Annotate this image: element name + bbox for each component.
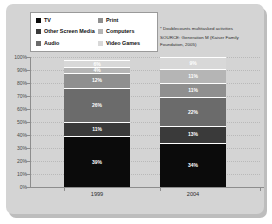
bar-segment: 39% bbox=[64, 136, 130, 187]
y-tick-mark bbox=[26, 174, 30, 175]
bar-segment-label: 26% bbox=[92, 103, 102, 108]
bar-segment: 34% bbox=[160, 143, 226, 187]
bar-segment: 13% bbox=[160, 126, 226, 143]
legend-label-audio: Audio bbox=[44, 41, 59, 46]
bar-segment: 11% bbox=[160, 69, 226, 83]
bar-segment: 26% bbox=[64, 88, 130, 122]
legend-swatch-computers bbox=[98, 29, 103, 34]
chart-figure: TV Print Other Screen Media Computers Au… bbox=[0, 0, 272, 224]
y-tick-mark bbox=[26, 135, 30, 136]
bar-segment-label: 11% bbox=[188, 88, 198, 93]
y-tick-mark bbox=[26, 122, 30, 123]
bar-segment-label: 6% bbox=[93, 62, 100, 67]
source-text-line2: Foundation, 2005) bbox=[160, 42, 262, 49]
bar-segment-label: 9% bbox=[189, 61, 196, 66]
y-tick-mark bbox=[26, 83, 30, 84]
bar-segment: 11% bbox=[160, 83, 226, 97]
legend-swatch-other-screen-media bbox=[36, 29, 41, 34]
chart-notes: * Doublecounts multitasked activities SO… bbox=[160, 26, 262, 48]
x-axis-labels: 1999 2004 bbox=[30, 191, 260, 205]
legend-label-other-screen-media: Other Screen Media bbox=[44, 29, 95, 34]
bar-segment: 9% bbox=[160, 57, 226, 69]
bar-segment: 22% bbox=[160, 97, 226, 126]
legend: TV Print Other Screen Media Computers Au… bbox=[30, 12, 158, 52]
bar-segment-label: 4% bbox=[93, 68, 100, 73]
bar-1999: 39%11%26%12%4%6% bbox=[64, 57, 130, 187]
legend-item-other-screen-media: Other Screen Media bbox=[36, 29, 98, 34]
x-tick-mark bbox=[64, 187, 65, 191]
bar-segment: 4% bbox=[64, 67, 130, 72]
footnote-text: * Doublecounts multitasked activities bbox=[160, 26, 262, 33]
bar-segment-label: 34% bbox=[188, 163, 198, 168]
source-text-line1: SOURCE: Generation M (Kaiser Family bbox=[160, 35, 262, 42]
y-tick-mark bbox=[26, 57, 30, 58]
x-tick-mark bbox=[260, 187, 261, 191]
legend-item-audio: Audio bbox=[36, 41, 98, 46]
bar-segment-label: 22% bbox=[188, 110, 198, 115]
x-label-1999: 1999 bbox=[64, 191, 130, 197]
bar-segment-label: 13% bbox=[188, 132, 198, 137]
bar-2004: 34%13%22%11%11%9% bbox=[160, 57, 226, 187]
x-label-2004: 2004 bbox=[160, 191, 226, 197]
x-tick-mark bbox=[160, 187, 161, 191]
x-axis-line bbox=[30, 187, 264, 188]
legend-label-print: Print bbox=[106, 18, 118, 23]
bar-segment-label: 39% bbox=[92, 160, 102, 165]
legend-item-computers: Computers bbox=[98, 29, 162, 34]
legend-label-video-games: Video Games bbox=[106, 41, 140, 46]
y-tick-mark bbox=[26, 96, 30, 97]
legend-item-print: Print bbox=[98, 18, 162, 23]
legend-swatch-audio bbox=[36, 41, 41, 46]
bar-segment-label: 11% bbox=[188, 74, 198, 79]
legend-label-computers: Computers bbox=[106, 29, 134, 34]
legend-item-tv: TV bbox=[36, 18, 98, 23]
bar-segment: 11% bbox=[64, 122, 130, 136]
bar-segment-label: 12% bbox=[92, 78, 102, 83]
bar-segment: 6% bbox=[64, 60, 130, 68]
bar-segment: 12% bbox=[64, 73, 130, 89]
legend-swatch-tv bbox=[36, 18, 41, 23]
legend-item-video-games: Video Games bbox=[98, 41, 162, 46]
bar-segment-label: 11% bbox=[92, 127, 102, 132]
legend-label-tv: TV bbox=[44, 18, 51, 23]
y-tick-mark bbox=[26, 109, 30, 110]
legend-swatch-print bbox=[98, 18, 103, 23]
y-tick-mark bbox=[26, 161, 30, 162]
legend-swatch-video-games bbox=[98, 41, 103, 46]
y-tick-mark bbox=[26, 148, 30, 149]
bars-container: 39%11%26%12%4%6% 34%13%22%11%11%9% bbox=[30, 57, 260, 187]
y-tick-mark bbox=[26, 187, 30, 188]
y-tick-mark bbox=[26, 70, 30, 71]
plot-area: 100%90%80%70%60%50%40%30%20%10%0% 39%11%… bbox=[0, 57, 272, 197]
